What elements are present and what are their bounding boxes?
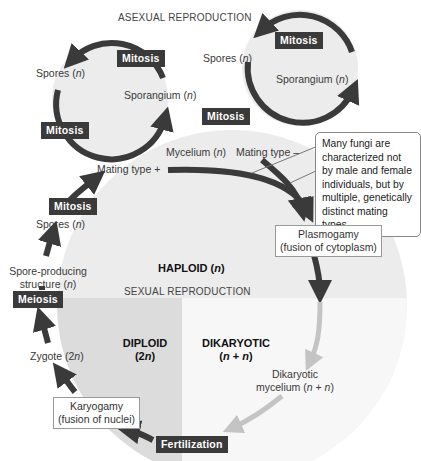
karyogamy-title: Karyogamy [70, 400, 123, 412]
spores-label: Spores (n) [36, 67, 85, 80]
mating-type-plus-label: Mating type + [97, 163, 160, 176]
dikaryotic-mycelium-label: Dikaryoticmycelium (n + n) [252, 368, 338, 394]
mitosis-tag: Mitosis [41, 122, 89, 139]
meiosis-tag: Meiosis [13, 291, 63, 308]
mitosis-tag: Mitosis [117, 50, 165, 67]
asexual-reproduction-header: ASEXUAL REPRODUCTION [118, 11, 252, 24]
mitosis-tag: Mitosis [275, 32, 323, 49]
plasmogamy-desc: (fusion of cytoplasm) [280, 241, 377, 253]
mitosis-tag: Mitosis [202, 108, 250, 125]
mycelium-label: Mycelium (n) [166, 146, 226, 159]
sporangium-label: Sporangium (n) [276, 73, 348, 86]
haploid-region-label: HAPLOID (n) [158, 262, 225, 275]
karyogamy-box: Karyogamy (fusion of nuclei) [53, 397, 140, 429]
spores-label: Spores (n) [203, 52, 252, 65]
diploid-region-label: DIPLOID(2n) [110, 337, 180, 363]
spore-producing-structure-label: Spore-producingstructure (n) [6, 265, 90, 291]
zygote-label: Zygote (2n) [30, 350, 84, 363]
fertilization-tag: Fertilization [156, 436, 228, 453]
plasmogamy-title: Plasmogamy [298, 228, 359, 240]
plasmogamy-box: Plasmogamy (fusion of cytoplasm) [275, 225, 382, 257]
dikaryotic-region-label: DIKARYOTIC(n + n) [196, 337, 276, 363]
karyogamy-desc: (fusion of nuclei) [58, 413, 135, 425]
spores-label: Spores (n) [36, 218, 85, 231]
mitosis-tag: Mitosis [49, 198, 97, 215]
mating-type-minus-label: Mating type – [236, 146, 299, 159]
sexual-reproduction-header: SEXUAL REPRODUCTION [124, 285, 251, 298]
mating-types-callout: Many fungi are characterized not by male… [315, 132, 421, 237]
sporangium-label: Sporangium (n) [124, 89, 196, 102]
